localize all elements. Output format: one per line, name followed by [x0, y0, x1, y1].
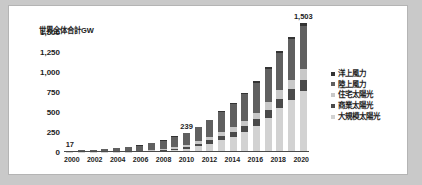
legend-label: 陸上風力 — [338, 81, 366, 89]
legend-item[interactable]: 商業太陽光 — [331, 102, 380, 110]
bar-segment — [195, 127, 202, 141]
stacked-bar[interactable] — [195, 127, 202, 152]
x-axis-tick-spacer: . — [171, 156, 178, 163]
bar-column[interactable] — [192, 32, 204, 152]
bar-segment — [253, 119, 260, 126]
bar-column[interactable]: 17 — [64, 32, 76, 152]
bar-segment — [300, 69, 307, 79]
bar-column[interactable] — [76, 32, 88, 152]
bar-segment — [276, 99, 283, 109]
bar-segment — [230, 137, 237, 152]
stacked-bar[interactable]: 1,503 — [300, 23, 307, 152]
x-axis-tick-label: 2000 — [64, 156, 80, 163]
y-axis-tick-label: 500 — [47, 107, 60, 116]
x-axis-tick-spacer: . — [103, 156, 110, 163]
legend-swatch-icon — [331, 93, 335, 97]
legend-item[interactable]: 住宅太陽光 — [331, 91, 380, 99]
legend-item[interactable]: 洋上風力 — [331, 70, 380, 78]
x-axis-tick-label: 2010 — [179, 156, 195, 163]
stacked-bar[interactable] — [265, 67, 272, 152]
x-axis-tick-label: 2004 — [110, 156, 126, 163]
bar-column[interactable] — [227, 32, 239, 152]
legend-label: 洋上風力 — [338, 70, 366, 78]
bar-column[interactable]: 239 — [181, 32, 193, 152]
bar-segment — [288, 100, 295, 152]
bar-column[interactable] — [239, 32, 251, 152]
legend-swatch-icon — [331, 115, 335, 119]
bar-column[interactable] — [99, 32, 111, 152]
bar-segment — [288, 89, 295, 100]
x-axis-tick-label: 2020 — [293, 156, 309, 163]
x-axis-tick-spacer: . — [125, 156, 132, 163]
y-axis-tick-label: 750 — [47, 88, 60, 97]
legend-swatch-icon — [331, 72, 335, 76]
plot-area: 02505007501,0001,2501,500 172391,503 — [64, 32, 309, 152]
x-axis-tick-label: 2016 — [248, 156, 264, 163]
y-axis-tick-label: 1,250 — [40, 47, 60, 56]
x-axis-tick-label: 2014 — [225, 156, 241, 163]
stacked-bar[interactable] — [171, 136, 178, 152]
x-axis-tick-spacer: . — [80, 156, 87, 163]
bar-column[interactable] — [169, 32, 181, 152]
legend-item[interactable]: 大規模太陽光 — [331, 113, 380, 121]
bar-value-label: 1,503 — [294, 12, 313, 21]
bar-segment — [265, 110, 272, 118]
legend-label: 住宅太陽光 — [338, 91, 373, 99]
stacked-bar[interactable] — [288, 37, 295, 152]
x-axis-tick-label: 2002 — [87, 156, 103, 163]
x-axis-tick-label: 2006 — [133, 156, 149, 163]
stacked-bar[interactable] — [241, 93, 248, 152]
stacked-bar[interactable] — [206, 120, 213, 152]
bar-segment — [300, 91, 307, 152]
bar-segment — [276, 90, 283, 99]
x-axis-tick-spacer: . — [240, 156, 247, 163]
x-axis-line — [64, 151, 309, 152]
legend-item[interactable]: 陸上風力 — [331, 81, 380, 89]
bar-segment — [288, 80, 295, 89]
bar-column[interactable] — [286, 32, 298, 152]
bar-column[interactable] — [204, 32, 216, 152]
bar-segment — [300, 80, 307, 92]
bar-column[interactable] — [274, 32, 286, 152]
bar-column[interactable] — [262, 32, 274, 152]
bar-column[interactable] — [251, 32, 263, 152]
stacked-bar[interactable] — [276, 51, 283, 152]
stacked-bar[interactable] — [218, 111, 225, 152]
x-axis-tick-label: 2012 — [202, 156, 218, 163]
bar-segment — [183, 133, 190, 145]
x-axis-tick-label: 2008 — [156, 156, 172, 163]
stacked-bar-chart: 世界全体合計GW 02505007501,0001,2501,500 17239… — [9, 6, 407, 174]
chart-legend: 洋上風力陸上風力住宅太陽光商業太陽光大規模太陽光 — [331, 70, 380, 120]
x-axis-tick-label: 2018 — [270, 156, 286, 163]
y-axis-tick-label: 250 — [47, 128, 60, 137]
bar-segment — [148, 143, 155, 150]
bar-segment — [276, 53, 283, 90]
bar-value-label: 239 — [180, 122, 193, 131]
x-axis-tick-spacer: . — [286, 156, 293, 163]
chart-figure-frame: 世界全体合計GW 02505007501,0001,2501,500 17239… — [8, 5, 408, 175]
bar-segment — [265, 118, 272, 152]
stacked-bar[interactable]: 239 — [183, 133, 190, 152]
bar-segment — [241, 132, 248, 152]
x-axis-tick-spacer: . — [194, 156, 201, 163]
bar-column[interactable] — [111, 32, 123, 152]
bar-value-label: 17 — [66, 140, 74, 149]
x-axis-tick-spacer: . — [148, 156, 155, 163]
bar-segment — [265, 102, 272, 110]
bar-column[interactable] — [157, 32, 169, 152]
legend-swatch-icon — [331, 104, 335, 108]
bar-segment — [218, 112, 225, 132]
bar-column[interactable] — [146, 32, 158, 152]
y-axis-tick-label: 1,500 — [40, 28, 60, 37]
bar-column[interactable] — [134, 32, 146, 152]
bar-segment — [253, 126, 260, 152]
bar-segment — [253, 83, 260, 113]
stacked-bar[interactable] — [253, 81, 260, 152]
bar-column[interactable] — [87, 32, 99, 152]
y-axis-tick-label: 0 — [56, 148, 60, 157]
bar-column[interactable]: 1,503 — [297, 32, 309, 152]
bar-column[interactable] — [216, 32, 228, 152]
bar-segment — [206, 120, 213, 137]
stacked-bar[interactable] — [230, 103, 237, 152]
bar-column[interactable] — [122, 32, 134, 152]
